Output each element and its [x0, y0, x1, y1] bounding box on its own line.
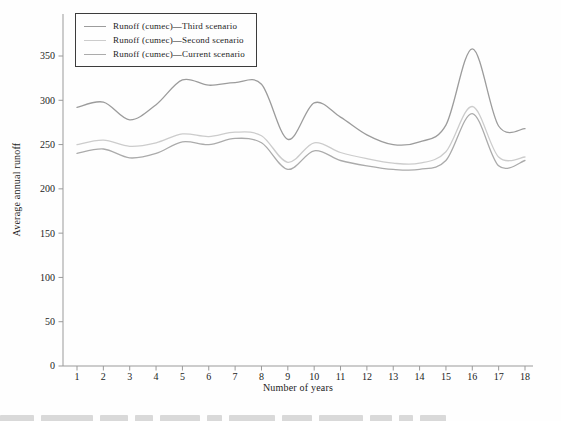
x-tick-label: 5	[180, 371, 185, 382]
legend-item-third-scenario: Runoff (cumec)—Third scenario	[84, 19, 245, 33]
legend-label: Runoff (cumec)—Second scenario	[113, 35, 244, 45]
x-tick-label: 13	[388, 371, 398, 382]
x-tick-label: 10	[309, 371, 319, 382]
x-tick-label: 17	[494, 371, 504, 382]
legend-item-current-scenario: Runoff (cumec)—Current scenario	[84, 47, 245, 61]
y-tick-label: 200	[40, 183, 55, 194]
x-tick-label: 16	[467, 371, 477, 382]
y-tick-label: 250	[40, 139, 55, 150]
x-tick-label: 14	[415, 371, 425, 382]
x-tick-label: 8	[259, 371, 264, 382]
y-tick-label: 350	[40, 50, 55, 61]
current-scenario-curve	[77, 114, 525, 171]
legend-item-second-scenario: Runoff (cumec)—Second scenario	[84, 33, 245, 47]
x-tick-label: 12	[362, 371, 372, 382]
y-axis-title: Average annual runoff	[11, 108, 22, 272]
x-tick-label: 15	[441, 371, 451, 382]
x-tick-label: 1	[75, 371, 80, 382]
legend-label: Runoff (cumec)—Current scenario	[113, 49, 245, 59]
x-tick-label: 6	[206, 371, 211, 382]
x-tick-label: 3	[127, 371, 132, 382]
y-tick-label: 150	[40, 228, 55, 239]
x-tick-label: 4	[154, 371, 159, 382]
y-tick-label: 100	[40, 272, 55, 283]
x-tick-label: 2	[101, 371, 106, 382]
x-tick-label: 11	[336, 371, 346, 382]
legend-label: Runoff (cumec)—Third scenario	[113, 21, 237, 31]
x-axis-title: Number of years	[63, 382, 533, 393]
x-tick-label: 9	[285, 371, 290, 382]
current-scenario-line-swatch	[84, 54, 106, 55]
cut-off-caption-fragment	[0, 415, 561, 421]
y-tick-label: 300	[40, 95, 55, 106]
x-tick-label: 18	[520, 371, 530, 382]
second-scenario-line-swatch	[84, 40, 106, 41]
x-tick-label: 7	[233, 371, 238, 382]
legend-box: Runoff (cumec)—Third scenario Runoff (cu…	[75, 13, 257, 67]
y-tick-label: 50	[45, 316, 55, 327]
third-scenario-line-swatch	[84, 26, 106, 27]
runoff-scenarios-line-chart: 0501001502002503003501234567891011121314…	[0, 0, 561, 421]
y-tick-label: 0	[50, 360, 55, 371]
